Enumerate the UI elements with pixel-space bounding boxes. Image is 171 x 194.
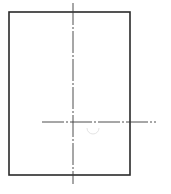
technical-drawing — [0, 0, 171, 194]
faint-arc — [87, 128, 99, 134]
outline-rectangle — [9, 12, 130, 175]
